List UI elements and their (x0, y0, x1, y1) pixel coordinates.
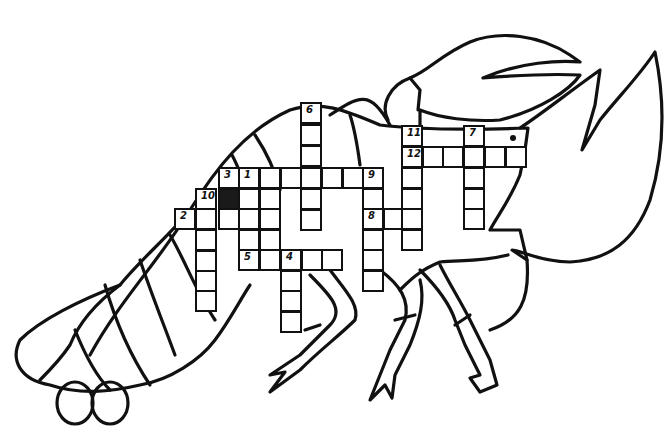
crossword-cell[interactable] (401, 167, 423, 189)
crossword-cell[interactable] (321, 249, 343, 271)
crossword-cell[interactable] (321, 167, 343, 189)
clue-number: 6 (306, 104, 313, 115)
crossword-cell[interactable] (259, 188, 281, 210)
crossword-cell[interactable] (195, 208, 217, 230)
crossword-cell[interactable] (362, 249, 384, 271)
crossword-cell[interactable] (195, 270, 217, 292)
clue-number: 11 (407, 127, 421, 138)
clue-number: 8 (368, 210, 375, 221)
clue-number: 5 (244, 251, 251, 262)
crossword-cell[interactable] (401, 188, 423, 210)
crossword-cell[interactable] (238, 229, 260, 251)
crossword-cell[interactable] (463, 167, 485, 189)
crossword-cell[interactable] (259, 167, 281, 189)
crossword-cell[interactable] (280, 270, 302, 292)
blocked-cell (218, 188, 240, 210)
crossword-cell[interactable] (442, 146, 464, 168)
clue-number: 3 (224, 169, 231, 180)
crossword-cell[interactable] (300, 188, 322, 210)
crossword-cell[interactable] (401, 208, 423, 230)
clue-number: 12 (407, 148, 421, 159)
crossword-cell[interactable] (362, 188, 384, 210)
clue-number: 4 (286, 251, 293, 262)
crossword-cell[interactable] (259, 229, 281, 251)
clue-number: 1 (244, 169, 251, 180)
crossword-cell[interactable] (280, 290, 302, 312)
crossword-cell[interactable] (342, 167, 364, 189)
crossword-cell[interactable] (259, 208, 281, 230)
clue-number: 2 (180, 210, 187, 221)
crossword-cell[interactable] (280, 167, 302, 189)
crossword-grid: 123456789101112 (0, 0, 671, 436)
crossword-cell[interactable] (362, 270, 384, 292)
crossword-cell[interactable] (300, 145, 322, 167)
crossword-cell[interactable] (218, 208, 240, 230)
crossword-cell[interactable] (484, 146, 506, 168)
clue-number: 7 (469, 127, 476, 138)
crossword-cell[interactable] (300, 209, 322, 231)
crossword-cell[interactable] (301, 249, 323, 271)
crossword-cell[interactable] (238, 188, 260, 210)
clue-number: 10 (201, 190, 215, 201)
crossword-cell[interactable] (401, 229, 423, 251)
crossword-cell[interactable] (195, 250, 217, 272)
crossword-cell[interactable] (463, 208, 485, 230)
crossword-cell[interactable] (280, 311, 302, 333)
crossword-cell[interactable] (195, 229, 217, 251)
crossword-cell[interactable] (505, 146, 527, 168)
crossword-cell[interactable] (195, 290, 217, 312)
crossword-cell[interactable] (463, 146, 485, 168)
crossword-cell[interactable] (259, 249, 281, 271)
crossword-cell[interactable] (300, 167, 322, 189)
crossword-cell[interactable] (463, 188, 485, 210)
clue-number: 9 (368, 169, 375, 180)
crossword-cell[interactable] (238, 208, 260, 230)
crossword-cell[interactable] (422, 146, 444, 168)
crossword-cell[interactable] (300, 124, 322, 146)
crossword-cell[interactable] (362, 229, 384, 251)
